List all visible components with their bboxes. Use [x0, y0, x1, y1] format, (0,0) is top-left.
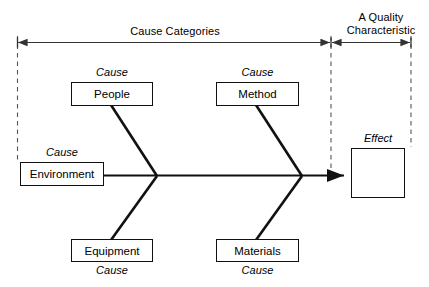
cause-tag-method: Cause	[216, 66, 299, 79]
category-box-materials[interactable]: Materials	[216, 239, 299, 262]
bone-equipment	[111, 176, 157, 240]
bracket-label-cause-categories: Cause Categories	[115, 25, 235, 38]
category-label-method: Method	[238, 88, 276, 100]
category-label-equipment: Equipment	[85, 245, 140, 257]
cause-tag-environment: Cause	[20, 146, 104, 159]
fishbone-diagram: Cause Categories A Quality Characteristi…	[0, 0, 429, 287]
bracket-label-quality-characteristic-line1: A Quality	[336, 11, 426, 24]
cause-tag-equipment: Cause	[71, 264, 153, 277]
cause-tag-people: Cause	[71, 66, 153, 79]
cause-tag-materials: Cause	[216, 264, 299, 277]
category-label-materials: Materials	[234, 245, 281, 257]
bone-materials	[256, 176, 302, 240]
bracket-arrow-quality-characteristic	[332, 38, 411, 48]
category-box-method[interactable]: Method	[216, 82, 299, 106]
category-box-people[interactable]: People	[71, 82, 153, 106]
effect-tag: Effect	[351, 132, 405, 145]
effect-box[interactable]	[351, 148, 405, 198]
bone-method	[256, 105, 302, 176]
bracket-label-quality-characteristic-line2: Characteristic	[336, 24, 426, 37]
category-label-people: People	[94, 88, 130, 100]
bracket-arrow-cause-categories	[18, 38, 332, 48]
category-label-environment: Environment	[30, 168, 95, 180]
bone-people	[111, 105, 157, 176]
category-box-equipment[interactable]: Equipment	[71, 239, 153, 262]
category-box-environment[interactable]: Environment	[20, 162, 104, 186]
